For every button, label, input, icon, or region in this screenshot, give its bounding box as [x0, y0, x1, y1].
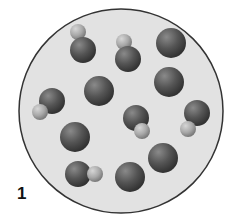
small-atom	[180, 121, 196, 137]
large-atom	[84, 76, 114, 106]
molecule-diagram: 1	[0, 0, 233, 224]
large-atom	[115, 46, 141, 72]
single-atom	[115, 162, 145, 192]
large-atom	[156, 28, 186, 58]
large-atom	[154, 67, 184, 97]
diagram-canvas	[0, 0, 233, 224]
large-atom	[70, 37, 96, 63]
single-atom	[156, 28, 186, 58]
single-atom	[148, 143, 178, 173]
single-atom	[60, 122, 90, 152]
small-atom	[134, 123, 150, 139]
single-atom	[84, 76, 114, 106]
small-atom	[87, 166, 103, 182]
single-atom	[154, 67, 184, 97]
small-atom	[32, 104, 48, 120]
diagram-label: 1	[17, 184, 26, 204]
large-atom	[148, 143, 178, 173]
large-atom	[115, 162, 145, 192]
large-atom	[60, 122, 90, 152]
